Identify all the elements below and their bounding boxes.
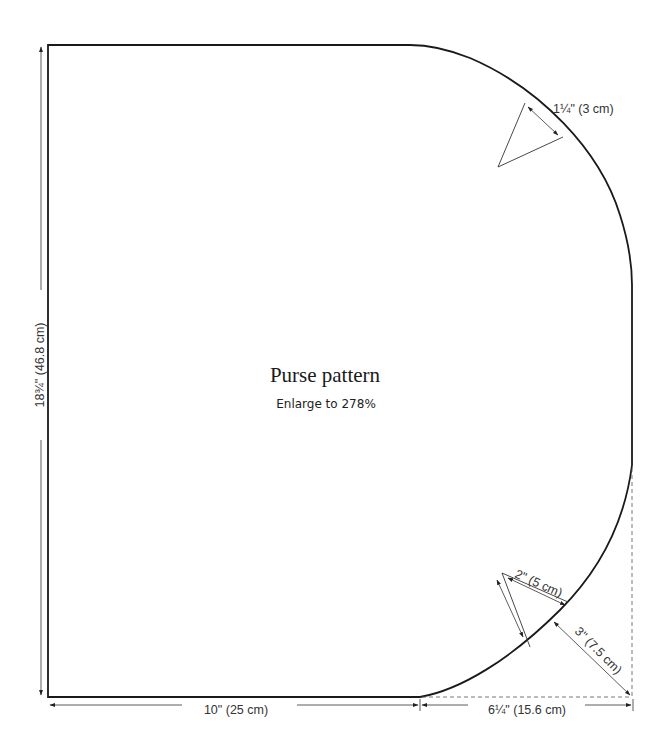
bottom-curve-dimension: 6¼" (15.6 cm) [422, 468, 633, 717]
purse-pattern-diagram: 18¾" (46.8 cm) 10" (25 cm) 6¼" (15.6 cm)… [0, 0, 666, 753]
bottom-straight-label: 10" (25 cm) [204, 703, 268, 717]
top-notch-label: 1¼" (3 cm) [553, 102, 614, 116]
pattern-title: Purse pattern [270, 363, 381, 387]
pattern-subtitle: Enlarge to 278% [276, 397, 376, 411]
top-notch: 1¼" (3 cm) [498, 102, 614, 167]
corner-offset-label: 3" (7.5 cm) [572, 624, 625, 677]
bottom-curve-label: 6¼" (15.6 cm) [488, 703, 566, 717]
height-dimension: 18¾" (46.8 cm) [33, 47, 47, 695]
bottom-straight-dimension: 10" (25 cm) [50, 699, 420, 717]
corner-offset-dimension: 3" (7.5 cm) [554, 622, 630, 695]
height-label: 18¾" (46.8 cm) [33, 322, 47, 407]
